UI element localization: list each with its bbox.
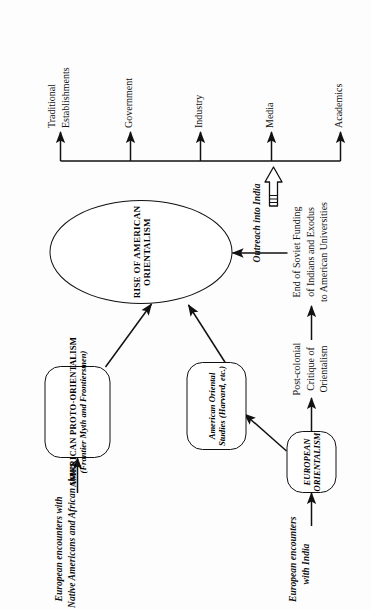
label-line-3: to American Universities	[317, 202, 328, 302]
output-label-industry: Industry	[191, 54, 205, 128]
label-line-1: European encounters	[286, 516, 297, 602]
node-label: RISE OF AMERICAN ORIENTALISM	[131, 201, 151, 303]
label-postcolonial-critique: Post-colonial Critique of Orientalism	[289, 338, 330, 400]
node-label-line-2: ORIENTALISM	[311, 433, 321, 492]
output-text: Government	[122, 78, 133, 128]
output-label-government: Government	[121, 48, 135, 128]
arrow-european-orientalism-to-oriental-studies	[244, 414, 286, 451]
label-outreach-into-india: Outreach into India	[250, 163, 263, 283]
arrow-oriental-studies-to-rise	[188, 305, 225, 363]
label-european-encounters-india: European encounters with India	[286, 526, 312, 602]
diagram-rotation-wrapper: European encounters with India European …	[0, 0, 371, 610]
label-line-1: End of Soviet Funding	[290, 207, 301, 298]
label-line-3: Orientalism	[317, 345, 328, 392]
label-line-2: with India	[299, 544, 310, 585]
node-label-line-1: EUROPEAN	[301, 433, 311, 492]
block-arrow-right-icon	[263, 164, 283, 208]
output-label-traditional-establishments: Traditional Establishments	[44, 36, 71, 128]
output-text: Media	[263, 102, 274, 128]
node-american-proto-orientalism[interactable]: AMERICAN PROTO-ORIENTALISM (Frontier Myt…	[44, 366, 110, 458]
node-american-oriental-studies[interactable]: American Oriental Studies (Harvard, etc.…	[186, 362, 246, 450]
output-text-line-2: Establishments	[59, 67, 70, 128]
arrow-proto-orientalism-to-rise	[105, 304, 151, 367]
node-label-line-1: AMERICAN PROTO-ORIENTALISM	[67, 337, 77, 487]
label-text: Outreach into India	[250, 184, 261, 263]
node-label-line-1: American Oriental	[206, 366, 216, 446]
node-rise-of-american-orientalism[interactable]: RISE OF AMERICAN ORIENTALISM	[49, 200, 232, 304]
label-european-encounters-natives: European encounters with Native American…	[52, 490, 78, 608]
node-label-line-2: Studies (Harvard, etc.)	[216, 366, 226, 446]
label-line-1: European encounters with	[52, 496, 63, 601]
label-line-2: of Indians and Exodus	[304, 207, 315, 297]
node-label-line-2: (Frontier Myth and Frontiersmen)	[77, 337, 87, 487]
output-text: Industry	[192, 95, 203, 128]
node-european-orientalism[interactable]: EUROPEAN ORIENTALISM	[286, 431, 336, 493]
output-text: Academics	[332, 84, 343, 128]
output-text-line-1: Traditional	[45, 84, 56, 128]
flowchart-canvas: European encounters with India European …	[0, 0, 371, 610]
output-label-academics: Academics	[331, 54, 345, 128]
label-line-2: Critique of	[304, 347, 315, 391]
label-line-1: Post-colonial	[290, 343, 301, 396]
label-soviet-funding-exodus: End of Soviet Funding of Indians and Exo…	[289, 194, 330, 310]
output-label-media: Media	[262, 54, 276, 128]
